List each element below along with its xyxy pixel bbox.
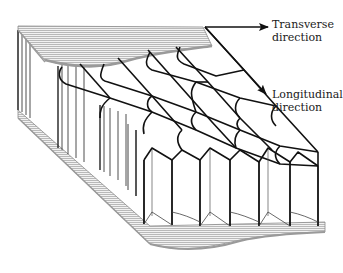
longitudinal-label-line-2: direction bbox=[272, 101, 343, 114]
honeycomb-core-walls bbox=[128, 124, 318, 226]
direction-arrows bbox=[205, 27, 268, 94]
top-face-sheet bbox=[18, 26, 212, 67]
longitudinal-label-line-1: Longitudinal bbox=[272, 88, 343, 101]
transverse-direction-label: Transverse direction bbox=[272, 18, 334, 44]
longitudinal-direction-label: Longitudinal direction bbox=[272, 88, 343, 114]
transverse-label-line-1: Transverse bbox=[272, 18, 334, 31]
transverse-label-line-2: direction bbox=[272, 31, 334, 44]
longitudinal-direction-arrow bbox=[205, 27, 266, 94]
